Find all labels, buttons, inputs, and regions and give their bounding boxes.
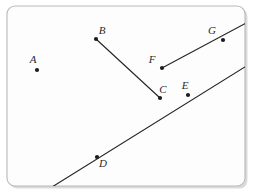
point-e-label: E: [181, 79, 189, 91]
point-c-dot: [158, 96, 162, 100]
point-c-label: C: [159, 83, 167, 95]
point-f-label: F: [148, 53, 156, 65]
point-g-dot: [221, 38, 225, 42]
point-a-dot: [35, 68, 39, 72]
point-d-label: D: [98, 157, 107, 169]
point-b-label: B: [99, 24, 106, 36]
point-g-label: G: [208, 24, 216, 36]
point-b-dot: [94, 37, 98, 41]
figure-root: ABCDEFG: [0, 0, 256, 196]
point-a-label: A: [29, 53, 37, 65]
point-e-dot: [186, 93, 190, 97]
geometry-canvas: ABCDEFG: [0, 0, 256, 196]
point-f-dot: [160, 66, 164, 70]
